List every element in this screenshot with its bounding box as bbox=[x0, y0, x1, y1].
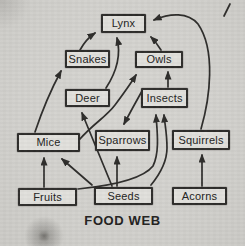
node-lynx: Lynx bbox=[101, 14, 146, 33]
node-mice: Mice bbox=[17, 133, 80, 152]
node-owls: Owls bbox=[135, 51, 183, 68]
node-label: Seeds bbox=[107, 191, 139, 202]
node-label: Sparrows bbox=[98, 135, 146, 146]
node-label: Squirrels bbox=[178, 135, 223, 146]
node-label: Snakes bbox=[69, 54, 107, 65]
node-fruits: Fruits bbox=[18, 188, 77, 206]
arrow-insects-to-sparrows bbox=[124, 91, 142, 124]
node-label: Insects bbox=[146, 93, 182, 104]
arrow-snakes-to-lynx bbox=[80, 33, 95, 50]
arrow-seeds-to-insects bbox=[151, 115, 167, 185]
node-label: Lynx bbox=[112, 18, 136, 29]
node-label: Mice bbox=[36, 137, 60, 148]
arrow-owls-to-lynx bbox=[151, 37, 161, 50]
node-insects: Insects bbox=[141, 88, 188, 108]
node-deer: Deer bbox=[65, 89, 110, 107]
node-label: Owls bbox=[146, 54, 171, 65]
arrow-layer bbox=[0, 0, 245, 246]
node-label: Acorns bbox=[182, 191, 217, 202]
arrow-mice-to-snakes bbox=[35, 71, 61, 132]
node-squirrels: Squirrels bbox=[172, 130, 230, 150]
node-label: Fruits bbox=[33, 192, 62, 203]
food-web-diagram: LynxSnakesOwlsDeerInsectsMiceSparrowsSqu… bbox=[0, 0, 245, 246]
node-snakes: Snakes bbox=[65, 50, 110, 68]
node-label: Deer bbox=[75, 93, 100, 104]
node-acorns: Acorns bbox=[172, 187, 227, 205]
node-seeds: Seeds bbox=[94, 187, 153, 205]
arrow-seeds-to-mice bbox=[62, 159, 92, 185]
stray-mark bbox=[224, 4, 230, 16]
node-sparrows: Sparrows bbox=[95, 130, 150, 151]
arrow-squirrels-to-lynx bbox=[154, 15, 210, 129]
diagram-title: FOOD WEB bbox=[0, 213, 245, 228]
